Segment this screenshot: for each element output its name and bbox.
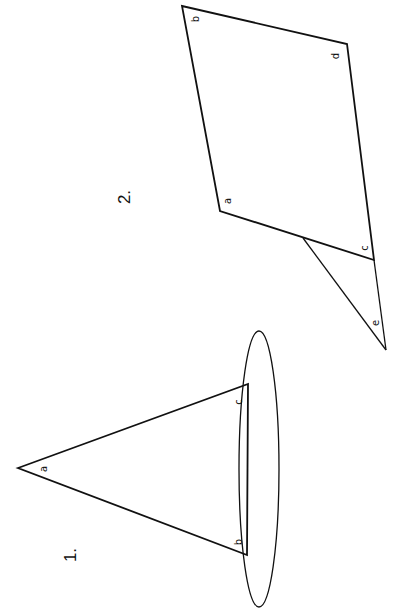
vertex-label-b: b: [233, 539, 244, 545]
figure-1: a b c 1.: [18, 331, 279, 607]
quadrilateral: [182, 6, 374, 260]
geometry-diagram: a b c 1. a b c d e 2.: [0, 0, 415, 616]
figure-2: a b c d e 2.: [115, 6, 386, 350]
vertex-label-a: a: [222, 198, 233, 204]
figure-1-number-label: 1.: [61, 548, 80, 562]
triangle: [18, 384, 248, 555]
vertex-label-c: c: [233, 399, 244, 405]
ellipse: [239, 331, 279, 607]
figure-2-number-label: 2.: [115, 190, 134, 204]
vertex-label-e: e: [370, 320, 381, 326]
vertex-label-d: d: [330, 53, 341, 59]
vertex-label-c: c: [359, 245, 370, 251]
vertex-label-b: b: [190, 16, 201, 22]
vertex-label-a: a: [38, 466, 49, 472]
